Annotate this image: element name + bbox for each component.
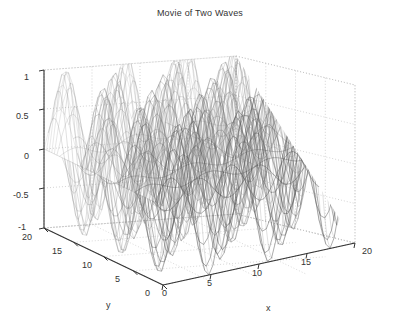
surface-plot-svg — [0, 0, 400, 331]
x-axis-label: x — [266, 303, 271, 313]
x-tick-0: 0 — [162, 288, 167, 298]
y-tick-0: 0 — [145, 288, 150, 298]
wave-surface-mesh — [44, 41, 355, 275]
y-tick-20: 20 — [22, 232, 32, 242]
z-tick-1: 1 — [24, 72, 29, 82]
y-tick-5: 5 — [115, 274, 120, 284]
x-tick-5: 5 — [207, 278, 212, 288]
y-axis-label: y — [106, 300, 111, 310]
x-tick-15: 15 — [301, 257, 311, 267]
z-tick-0p5: 0.5 — [16, 111, 29, 121]
figure-canvas: Movie of Two Waves — [0, 0, 400, 331]
x-tick-10: 10 — [252, 268, 262, 278]
z-tick-0: 0 — [24, 151, 29, 161]
y-tick-10: 10 — [82, 260, 92, 270]
z-tick-m1: -1 — [18, 222, 26, 232]
x-tick-20: 20 — [362, 246, 372, 256]
y-tick-15: 15 — [52, 246, 62, 256]
z-tick-m0p5: -0.5 — [13, 190, 29, 200]
